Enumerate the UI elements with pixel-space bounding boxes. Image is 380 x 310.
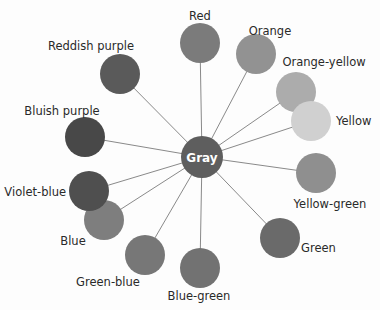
- node-yellow-green: Yellow-green: [293, 153, 367, 211]
- node-green: Green: [260, 218, 336, 258]
- label-blue: Blue: [60, 234, 85, 248]
- node-bluish-purple: Bluish purple: [24, 104, 105, 157]
- swatch-yellow: [291, 101, 331, 141]
- node-yellow: Yellow: [291, 101, 371, 141]
- swatch-reddish-purple: [100, 54, 140, 94]
- swatch-violet-blue: [69, 171, 109, 211]
- label-yellow-green: Yellow-green: [293, 197, 367, 211]
- node-blue-green: Blue-green: [168, 248, 231, 303]
- swatch-green-blue: [125, 235, 165, 275]
- node-reddish-purple: Reddish purple: [48, 39, 140, 94]
- label-orange-yellow: Orange-yellow: [282, 55, 365, 69]
- label-yellow: Yellow: [335, 114, 371, 128]
- label-violet-blue: Violet-blue: [4, 185, 66, 199]
- swatch-green: [260, 218, 300, 258]
- label-blue-green: Blue-green: [168, 289, 231, 303]
- label-green: Green: [301, 241, 336, 255]
- swatch-yellow-green: [296, 153, 336, 193]
- center-node: Gray: [181, 136, 223, 178]
- node-green-blue: Green-blue: [76, 235, 165, 289]
- node-red: Red: [180, 9, 220, 63]
- label-bluish-purple: Bluish purple: [24, 104, 99, 118]
- swatch-orange: [236, 34, 276, 74]
- swatch-bluish-purple: [65, 117, 105, 157]
- center-label: Gray: [186, 151, 217, 165]
- swatch-blue-green: [180, 248, 220, 288]
- label-reddish-purple: Reddish purple: [48, 39, 134, 53]
- label-orange: Orange: [249, 24, 292, 38]
- color-wheel-diagram: RedOrangeOrange-yellowYellowYellow-green…: [0, 0, 380, 310]
- label-green-blue: Green-blue: [76, 275, 140, 289]
- node-orange-yellow: Orange-yellow: [276, 55, 366, 112]
- swatch-red: [180, 23, 220, 63]
- node-violet-blue: Violet-blue: [4, 171, 109, 211]
- label-red: Red: [189, 9, 211, 23]
